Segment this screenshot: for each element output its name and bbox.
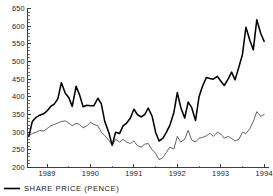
x-axis-tick-labels: 198919901991199219931994 — [38, 169, 272, 178]
share-price-line-chart: 200250300350400450500550600650 198919901… — [0, 0, 273, 196]
x-tick-label: 1991 — [125, 169, 142, 178]
y-tick-label: 600 — [12, 22, 25, 31]
y-tick-label: 350 — [12, 110, 25, 119]
y-tick-label: 250 — [12, 145, 25, 154]
y-tick-label: 550 — [12, 39, 25, 48]
data-series — [29, 20, 264, 160]
y-tick-label: 300 — [12, 128, 25, 137]
series-index — [29, 112, 264, 160]
x-tick-label: 1994 — [256, 169, 273, 178]
series-share-price — [29, 20, 264, 145]
legend-label-share-price: SHARE PRICE (PENCE) — [24, 184, 119, 193]
y-tick-label: 650 — [12, 4, 25, 13]
x-tick-label: 1990 — [82, 169, 99, 178]
y-tick-label: 500 — [12, 57, 25, 66]
y-tick-label: 200 — [12, 163, 25, 172]
y-tick-label: 450 — [12, 75, 25, 84]
x-tick-label: 1989 — [38, 169, 55, 178]
y-tick-label: 400 — [12, 92, 25, 101]
y-axis-tick-labels: 200250300350400450500550600650 — [12, 4, 25, 172]
x-tick-label: 1992 — [169, 169, 186, 178]
chart-container: 200250300350400450500550600650 198919901… — [0, 0, 273, 196]
x-tick-label: 1993 — [212, 169, 229, 178]
chart-legend: SHARE PRICE (PENCE) — [4, 184, 119, 193]
